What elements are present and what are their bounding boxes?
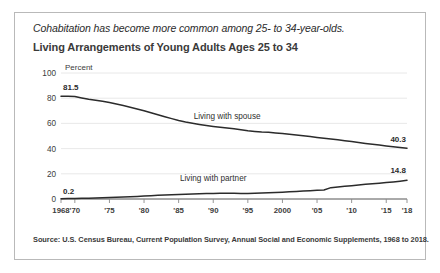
x-axis-tick-label: '15 bbox=[381, 206, 392, 215]
x-axis-tick-label: '05 bbox=[312, 206, 323, 215]
x-axis-tick-label: 2000 bbox=[274, 206, 292, 215]
x-axis-tick-label: '75 bbox=[104, 206, 115, 215]
data-label-partner-end: 14.8 bbox=[390, 166, 406, 175]
y-axis-tick-label: 40 bbox=[47, 145, 57, 154]
series-line bbox=[61, 180, 407, 198]
y-axis-tick-label: 0 bbox=[51, 195, 56, 204]
x-axis-tick-label: '95 bbox=[243, 206, 254, 215]
chart-source-note: Source: U.S. Census Bureau, Current Popu… bbox=[33, 235, 429, 244]
data-label-spouse-start: 81.5 bbox=[63, 83, 79, 92]
y-axis-tick-label: 100 bbox=[42, 69, 56, 78]
y-axis-unit-label: Percent bbox=[65, 63, 93, 72]
x-axis-tick-label: '18 bbox=[402, 206, 413, 215]
chart-card: Cohabitation has become more common amon… bbox=[14, 12, 426, 260]
x-axis-tick-label: '80 bbox=[139, 206, 150, 215]
x-axis-tick-label: '70 bbox=[70, 206, 81, 215]
y-axis-tick-label: 20 bbox=[47, 170, 57, 179]
x-axis-tick-label: '85 bbox=[173, 206, 184, 215]
data-label-partner-start: 0.2 bbox=[63, 187, 75, 196]
line-chart: 020406080100Percent1968'70'75'80'85'90'9… bbox=[15, 59, 425, 231]
x-axis-tick-label: '10 bbox=[346, 206, 357, 215]
chart-title: Living Arrangements of Young Adults Ages… bbox=[33, 41, 298, 53]
x-axis-tick-label: '90 bbox=[208, 206, 219, 215]
y-axis-tick-label: 80 bbox=[47, 94, 57, 103]
chart-subtitle: Cohabitation has become more common amon… bbox=[33, 22, 345, 34]
y-axis-tick-label: 60 bbox=[47, 119, 57, 128]
x-axis-tick-label: 1968 bbox=[52, 206, 70, 215]
series-line bbox=[61, 96, 407, 148]
series-label-spouse: Living with spouse bbox=[194, 112, 261, 121]
series-label-partner: Living with partner bbox=[180, 174, 247, 183]
chart-plot-area: 020406080100Percent1968'70'75'80'85'90'9… bbox=[15, 59, 425, 231]
data-label-spouse-end: 40.3 bbox=[390, 135, 406, 144]
